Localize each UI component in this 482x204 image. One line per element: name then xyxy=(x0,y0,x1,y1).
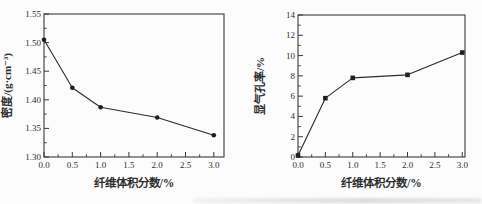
figure-scan: 0.00.51.01.52.02.53.01.301.351.401.451.5… xyxy=(0,0,482,204)
y-tick-label: 6 xyxy=(291,91,296,101)
y-tick-label: 4 xyxy=(291,111,296,121)
y-tick-label: 0 xyxy=(291,152,296,162)
y-tick-label: 1.45 xyxy=(25,66,41,76)
x-tick-label: 1.5 xyxy=(375,160,387,170)
data-point xyxy=(350,76,355,81)
density-chart: 0.00.51.01.52.02.53.01.301.351.401.451.5… xyxy=(0,0,241,204)
plot-frame xyxy=(298,15,465,157)
porosity-chart-canvas: 0.00.51.01.52.02.53.002468101214纤维体积分数/%… xyxy=(241,0,482,204)
series-line xyxy=(44,40,214,136)
data-point xyxy=(70,85,75,90)
y-tick-label: 14 xyxy=(286,10,296,20)
series-line xyxy=(298,53,462,156)
x-tick-label: 2.0 xyxy=(402,160,414,170)
x-tick-label: 1.5 xyxy=(123,160,135,170)
x-tick-label: 0.5 xyxy=(67,160,79,170)
x-tick-label: 3.0 xyxy=(457,160,469,170)
data-point xyxy=(98,105,103,110)
density-chart-canvas: 0.00.51.01.52.02.53.01.301.351.401.451.5… xyxy=(0,0,241,204)
y-tick-label: 10 xyxy=(286,51,296,61)
x-tick-label: 3.0 xyxy=(208,160,220,170)
y-axis-label: 显气孔率/% xyxy=(253,57,266,115)
y-tick-label: 12 xyxy=(286,30,295,40)
x-axis-label: 纤维体积分数/% xyxy=(94,176,175,189)
y-tick-label: 1.35 xyxy=(25,123,41,133)
data-point xyxy=(42,37,47,42)
data-point xyxy=(296,153,301,158)
x-tick-label: 1.0 xyxy=(347,160,359,170)
x-tick-label: 0.5 xyxy=(320,160,332,170)
y-tick-label: 1.40 xyxy=(25,95,41,105)
x-tick-label: 2.5 xyxy=(180,160,192,170)
x-tick-label: 2.5 xyxy=(429,160,441,170)
y-tick-label: 1.55 xyxy=(25,9,41,19)
x-tick-label: 1.0 xyxy=(95,160,107,170)
x-axis-label: 纤维体积分数/% xyxy=(341,176,422,189)
y-tick-label: 1.30 xyxy=(25,152,41,162)
y-tick-label: 8 xyxy=(291,71,296,81)
scan-artifact xyxy=(193,198,482,203)
y-tick-label: 2 xyxy=(291,132,296,142)
data-point xyxy=(212,133,217,138)
y-tick-label: 1.50 xyxy=(25,38,41,48)
x-tick-label: 2.0 xyxy=(152,160,164,170)
porosity-chart: 0.00.51.01.52.02.53.002468101214纤维体积分数/%… xyxy=(241,0,482,204)
data-point xyxy=(155,115,160,120)
data-point xyxy=(405,73,410,78)
y-axis-label: 密度/(g·cm⁻³) xyxy=(0,53,14,118)
data-point xyxy=(460,50,465,55)
data-point xyxy=(323,96,328,101)
